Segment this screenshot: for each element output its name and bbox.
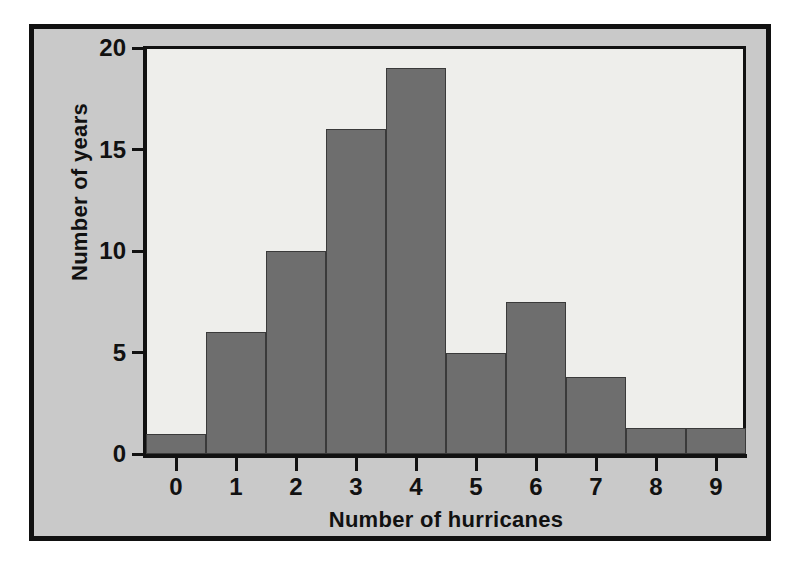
bar xyxy=(506,302,566,454)
y-tick-mark xyxy=(132,47,145,50)
y-tick-label: 5 xyxy=(70,341,126,365)
bar xyxy=(566,377,626,454)
bar xyxy=(206,332,266,454)
bar xyxy=(326,129,386,454)
x-tick-label: 2 xyxy=(276,475,316,499)
bar xyxy=(266,251,326,454)
x-tick-label: 0 xyxy=(156,475,196,499)
x-tick-mark xyxy=(715,458,718,471)
x-tick-mark xyxy=(595,458,598,471)
y-tick-mark xyxy=(132,148,145,151)
bar xyxy=(146,434,206,454)
x-tick-label: 9 xyxy=(696,475,736,499)
x-tick-label: 3 xyxy=(336,475,376,499)
bar xyxy=(386,68,446,454)
histogram-figure: 05101520 0123456789 Number of hurricanes… xyxy=(0,0,806,565)
x-tick-label: 7 xyxy=(576,475,616,499)
bar xyxy=(686,428,746,454)
x-tick-mark xyxy=(655,458,658,471)
figure-panel: 05101520 0123456789 Number of hurricanes… xyxy=(34,29,766,536)
y-tick-mark xyxy=(132,250,145,253)
y-tick-mark xyxy=(132,453,145,456)
bar xyxy=(446,353,506,455)
x-tick-label: 6 xyxy=(516,475,556,499)
y-tick-label: 20 xyxy=(70,36,126,60)
x-tick-label: 1 xyxy=(216,475,256,499)
y-tick-mark xyxy=(132,351,145,354)
x-tick-mark xyxy=(295,458,298,471)
bar-series xyxy=(146,48,746,454)
x-tick-mark xyxy=(535,458,538,471)
x-tick-label: 8 xyxy=(636,475,676,499)
x-tick-mark xyxy=(355,458,358,471)
x-tick-label: 4 xyxy=(396,475,436,499)
bar xyxy=(626,428,686,454)
y-tick-label: 0 xyxy=(70,442,126,466)
x-tick-mark xyxy=(475,458,478,471)
y-axis-title: Number of years xyxy=(67,82,93,302)
x-axis-title: Number of hurricanes xyxy=(146,507,746,533)
x-tick-label: 5 xyxy=(456,475,496,499)
x-tick-mark xyxy=(415,458,418,471)
y-axis-title-wrapper: Number of years xyxy=(0,179,190,219)
x-tick-mark xyxy=(175,458,178,471)
figure-frame: 05101520 0123456789 Number of hurricanes… xyxy=(29,24,771,541)
x-tick-mark xyxy=(235,458,238,471)
